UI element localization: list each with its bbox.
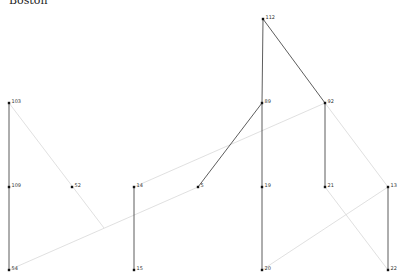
edge-103-pt104,228 [9, 103, 104, 228]
node-92 [324, 102, 326, 104]
edge-20-13 [262, 187, 388, 270]
node-112 [262, 18, 264, 20]
node-15 [133, 269, 135, 271]
node-5 [197, 186, 199, 188]
node-20 [261, 269, 263, 271]
node-label: 22 [391, 265, 397, 271]
node-label: 103 [12, 98, 22, 104]
node-label: 14 [137, 182, 143, 188]
edge-21-22 [325, 187, 388, 270]
node-label: 19 [265, 182, 271, 188]
node-103 [8, 102, 10, 104]
tree-graph: 11210389921095214519211354152022 [0, 0, 406, 274]
node-label: 109 [12, 182, 22, 188]
edge-89-5 [198, 103, 262, 187]
node-label: 52 [75, 182, 81, 188]
node-label: 13 [391, 182, 397, 188]
node-label: 15 [137, 265, 143, 271]
node-22 [387, 269, 389, 271]
node-13 [387, 186, 389, 188]
node-109 [8, 186, 10, 188]
node-52 [71, 186, 73, 188]
node-label: 112 [266, 14, 276, 20]
node-label: 54 [12, 265, 18, 271]
node-label: 5 [201, 182, 204, 188]
node-label: 89 [265, 98, 271, 104]
edge-54-5 [9, 187, 198, 270]
edge-112-92 [263, 19, 325, 103]
edge-92-13 [325, 103, 388, 187]
node-89 [261, 102, 263, 104]
node-label: 21 [328, 182, 334, 188]
node-54 [8, 269, 10, 271]
node-21 [324, 186, 326, 188]
edge-112-89 [262, 19, 263, 103]
node-label: 20 [265, 265, 271, 271]
node-14 [133, 186, 135, 188]
node-label: 92 [328, 98, 334, 104]
node-19 [261, 186, 263, 188]
